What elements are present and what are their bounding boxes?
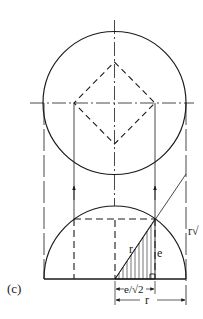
label-side: r√ [188, 224, 199, 238]
panel-label: (c) [7, 281, 21, 296]
label-hypotenuse-r: r [129, 242, 133, 256]
label-half-base: e/√2 [124, 283, 143, 295]
label-radius-dim: r [145, 293, 149, 307]
front-view [44, 174, 186, 279]
top-view [30, 20, 194, 176]
geometry-diagram: r e e/√2 r r√ (c) [0, 0, 203, 319]
projection-lines [44, 103, 186, 305]
hatched-triangle [115, 219, 155, 279]
label-height-e: e [157, 246, 162, 260]
